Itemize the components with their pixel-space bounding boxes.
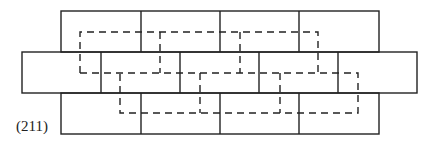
brick-diagram	[0, 0, 433, 146]
figure-label: (211)	[16, 118, 48, 135]
